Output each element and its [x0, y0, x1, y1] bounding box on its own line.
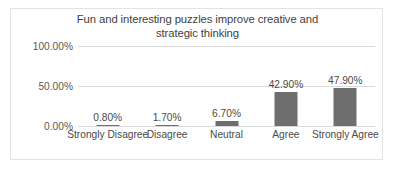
bar-group-neutral: 6.70%	[197, 46, 256, 126]
chart-title: Fun and interesting puzzles improve crea…	[41, 13, 354, 40]
chart-title-line-1: Fun and interesting puzzles improve crea…	[41, 13, 354, 27]
bar-group-agree: 42.90%	[256, 46, 315, 126]
y-axis-tick-50: 50.00%	[38, 81, 73, 92]
x-axis-label-text: Strongly Disagree	[67, 129, 148, 140]
chart-container: Fun and interesting puzzles improve crea…	[10, 8, 383, 160]
plot-area: 100.00% 50.00% 0.00% 0.80% 1.70% 6.70% 4…	[78, 46, 375, 127]
bar-value-strongly-agree: 47.90%	[328, 75, 363, 86]
x-axis-label-text: Agree	[272, 129, 299, 140]
x-axis-label-strongly-agree: Strongly Agree	[316, 128, 375, 144]
x-axis-label-text: Strongly Agree	[312, 129, 379, 140]
bar-agree[interactable]	[274, 92, 297, 126]
bar-value-disagree: 1.70%	[153, 112, 182, 123]
bar-group-strongly-disagree: 0.80%	[78, 46, 137, 126]
bar-series: 0.80% 1.70% 6.70% 42.90% 47.90%	[78, 46, 375, 126]
bar-value-agree: 42.90%	[269, 79, 304, 90]
x-axis-label-agree: Agree	[256, 128, 315, 144]
x-axis-label-neutral: Neutral	[197, 128, 256, 144]
x-axis-label-text: Neutral	[210, 129, 243, 140]
x-axis-label-disagree: Disagree	[137, 128, 196, 144]
x-axis-label-text: Disagree	[147, 129, 188, 140]
bar-group-strongly-agree: 47.90%	[316, 46, 375, 126]
bar-value-neutral: 6.70%	[212, 108, 241, 119]
bar-strongly-agree[interactable]	[334, 88, 357, 126]
axis-baseline	[78, 126, 375, 127]
bar-value-strongly-disagree: 0.80%	[93, 112, 122, 123]
bar-disagree[interactable]	[156, 125, 179, 126]
y-axis-tick-100: 100.00%	[33, 41, 73, 52]
x-axis-labels: Strongly Disagree Disagree Neutral Agree…	[78, 128, 375, 144]
chart-title-line-2: strategic thinking	[41, 27, 354, 41]
bar-strongly-disagree[interactable]	[96, 125, 119, 126]
x-axis-label-strongly-disagree: Strongly Disagree	[78, 128, 137, 144]
bar-group-disagree: 1.70%	[137, 46, 196, 126]
bar-neutral[interactable]	[215, 121, 238, 126]
